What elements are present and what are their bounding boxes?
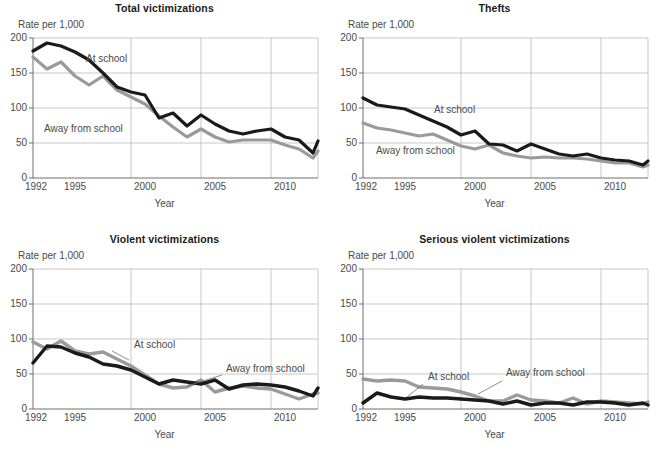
y-tick-labels: 200 150 100 50 0: [10, 263, 27, 414]
svg-text:2005: 2005: [534, 181, 557, 192]
plot-area: 200 150 100 50 0 1992 1995 2000 2005 201…: [0, 231, 329, 462]
svg-text:200: 200: [340, 32, 357, 43]
series-label-at-school: At school: [434, 104, 475, 115]
chart-panel-total-victimizations: Total victimizations Rate per 1,000: [0, 0, 329, 231]
svg-text:2005: 2005: [204, 181, 227, 192]
svg-text:150: 150: [10, 298, 27, 309]
svg-text:2010: 2010: [274, 412, 297, 423]
svg-text:150: 150: [340, 298, 357, 309]
svg-text:2010: 2010: [604, 412, 627, 423]
svg-text:50: 50: [16, 368, 28, 379]
plot-area: 200 150 100 50 0 1992 1995 2000 2005 201…: [330, 231, 659, 462]
series-label-away-from-school: Away from school: [506, 367, 585, 378]
series-line-away-from-school: [33, 43, 318, 153]
svg-text:2005: 2005: [534, 412, 557, 423]
svg-text:1995: 1995: [64, 181, 87, 192]
y-tick-labels: 200 150 100 50 0: [340, 263, 357, 414]
x-axis-title: Year: [330, 429, 659, 440]
svg-text:100: 100: [10, 333, 27, 344]
svg-text:150: 150: [340, 67, 357, 78]
plot-area: 200 150 100 50 0 1992 1995 2000 2005 201…: [0, 0, 329, 231]
series-label-away-from-school: Away from school: [376, 145, 455, 156]
svg-text:2000: 2000: [134, 412, 157, 423]
chart-panel-violent-victimizations: Violent victimizations Rate per 1,000: [0, 231, 329, 462]
svg-text:1992: 1992: [25, 412, 48, 423]
svg-text:200: 200: [10, 32, 27, 43]
series-label-away-from-school: Away from school: [44, 123, 123, 134]
svg-text:1995: 1995: [394, 181, 417, 192]
series-label-at-school: At school: [86, 53, 127, 64]
chart-panel-thefts: Thefts Rate per 1,000: [330, 0, 659, 231]
y-tick-labels: 200 150 100 50 0: [10, 32, 27, 183]
series-label-at-school: At school: [428, 371, 469, 382]
x-axis-title: Year: [0, 198, 329, 209]
svg-text:50: 50: [16, 137, 28, 148]
svg-text:100: 100: [340, 102, 357, 113]
svg-text:2000: 2000: [464, 181, 487, 192]
x-tick-labels: 1992 1995 2000 2005 2010: [25, 412, 297, 423]
svg-text:200: 200: [10, 263, 27, 274]
svg-text:200: 200: [340, 263, 357, 274]
x-axis-title: Year: [0, 429, 329, 440]
svg-text:2010: 2010: [604, 181, 627, 192]
multi-panel-line-chart-figure: Total victimizations Rate per 1,000: [0, 0, 659, 463]
svg-text:100: 100: [340, 333, 357, 344]
x-tick-labels: 1992 1995 2000 2005 2010: [355, 181, 627, 192]
svg-text:100: 100: [10, 102, 27, 113]
svg-text:2005: 2005: [204, 412, 227, 423]
x-tick-labels: 1992 1995 2000 2005 2010: [355, 412, 627, 423]
chart-panel-serious-violent-victimizations: Serious violent victimizations Rate per …: [330, 231, 659, 462]
svg-text:50: 50: [346, 368, 358, 379]
gridlines: [33, 38, 318, 178]
plot-area: 200 150 100 50 0 1992 1995 2000 2005 201…: [330, 0, 659, 231]
svg-text:1992: 1992: [25, 181, 48, 192]
svg-text:1995: 1995: [64, 412, 87, 423]
svg-text:1995: 1995: [394, 412, 417, 423]
cropped-footer-text: [200, 456, 630, 461]
svg-text:1992: 1992: [355, 181, 378, 192]
y-tick-labels: 200 150 100 50 0: [340, 32, 357, 183]
series-label-at-school: At school: [134, 339, 175, 350]
svg-text:1992: 1992: [355, 412, 378, 423]
svg-text:2000: 2000: [134, 181, 157, 192]
gridlines: [363, 269, 648, 409]
x-tick-labels: 1992 1995 2000 2005 2010: [25, 181, 297, 192]
series-label-away-from-school: Away from school: [226, 363, 305, 374]
svg-text:50: 50: [346, 137, 358, 148]
svg-text:150: 150: [10, 67, 27, 78]
x-axis-title: Year: [330, 198, 659, 209]
svg-text:2000: 2000: [464, 412, 487, 423]
svg-text:2010: 2010: [274, 181, 297, 192]
